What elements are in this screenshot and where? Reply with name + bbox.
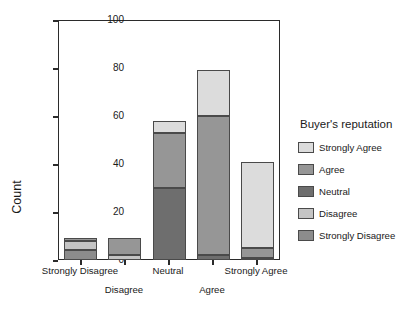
legend-swatch-icon bbox=[298, 164, 314, 175]
legend-title: Buyer's reputation bbox=[300, 118, 410, 131]
y-tick-mark bbox=[53, 260, 58, 262]
legend-item-label: Agree bbox=[319, 164, 345, 175]
bar-segment-neutral bbox=[153, 188, 186, 260]
bar-segment-agree bbox=[108, 238, 141, 255]
bar-segment-strongly-agree bbox=[197, 70, 230, 116]
legend-swatch-icon bbox=[298, 208, 314, 219]
bar-neutral bbox=[153, 121, 186, 260]
bar-segment-strongly-disagree bbox=[64, 250, 97, 260]
legend-item-strongly-disagree[interactable]: Strongly Disagree bbox=[298, 230, 410, 241]
y-axis-title: Count bbox=[10, 157, 24, 237]
chart-container: 100 80 60 40 20 0 Count Strongly Disagre… bbox=[0, 0, 410, 317]
bar-segment-strongly-agree bbox=[241, 162, 274, 248]
bar-segment-disagree bbox=[241, 258, 274, 260]
bar-strongly-disagree bbox=[64, 238, 97, 260]
legend-item-neutral[interactable]: Neutral bbox=[298, 186, 410, 197]
legend-item-strongly-agree[interactable]: Strongly Agree bbox=[298, 142, 410, 153]
bar-segment-agree bbox=[241, 248, 274, 258]
bar-segment-agree bbox=[153, 133, 186, 188]
x-tick-label-strongly-agree: Strongly Agree bbox=[196, 265, 316, 276]
legend-item-label: Strongly Disagree bbox=[319, 230, 395, 241]
bars-layer bbox=[58, 20, 280, 260]
legend-rows: Strongly AgreeAgreeNeutralDisagreeStrong… bbox=[298, 142, 410, 241]
bar-segment-agree bbox=[64, 238, 97, 240]
legend-item-label: Neutral bbox=[319, 186, 350, 197]
legend-item-agree[interactable]: Agree bbox=[298, 164, 410, 175]
legend-item-label: Strongly Agree bbox=[319, 142, 382, 153]
bar-strongly-agree bbox=[241, 162, 274, 260]
bar-segment-disagree bbox=[64, 241, 97, 251]
x-tick-label-agree: Agree bbox=[162, 284, 262, 295]
legend-swatch-icon bbox=[298, 186, 314, 197]
bar-segment-strongly-agree bbox=[153, 121, 186, 133]
x-tick-label-disagree: Disagree bbox=[74, 284, 174, 295]
bar-agree bbox=[197, 70, 230, 260]
legend-swatch-icon bbox=[298, 142, 314, 153]
legend-item-disagree[interactable]: Disagree bbox=[298, 208, 410, 219]
bar-segment-agree bbox=[197, 116, 230, 255]
legend-swatch-icon bbox=[298, 230, 314, 241]
legend: Buyer's reputation Strongly AgreeAgreeNe… bbox=[298, 118, 410, 252]
bar-disagree bbox=[108, 238, 141, 260]
legend-item-label: Disagree bbox=[319, 208, 357, 219]
